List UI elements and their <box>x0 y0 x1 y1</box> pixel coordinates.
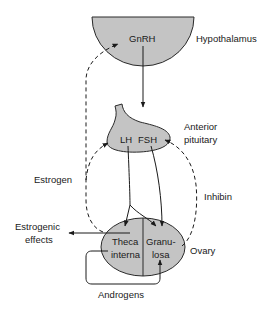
estrogenic-effects-label-1: Estrogenic <box>15 221 60 232</box>
theca-label-2: interna <box>111 249 141 260</box>
hpo-axis-diagram: GnRH Hypothalamus LH FSH Anterior pituit… <box>0 0 269 314</box>
hypothalamus-label: Hypothalamus <box>196 33 257 44</box>
estrogen-to-pituitary-arrow <box>86 143 108 180</box>
androgens-label: Androgens <box>98 289 144 300</box>
anterior-pituitary-label-2: pituitary <box>184 134 218 145</box>
lh-to-theca-arrow <box>125 146 130 226</box>
fsh-label: FSH <box>138 134 157 145</box>
granulosa-label-1: Granu- <box>146 236 176 247</box>
anterior-pituitary-label-1: Anterior <box>184 121 217 132</box>
theca-label-1: Theca <box>112 236 139 247</box>
estrogenic-effects-label-2: effects <box>25 234 53 245</box>
fsh-to-granulosa-arrow <box>151 146 162 226</box>
inhibin-label: Inhibin <box>204 191 232 202</box>
gnrh-label: GnRH <box>129 33 156 44</box>
ovary-label: Ovary <box>190 245 216 256</box>
estrogen-label: Estrogen <box>34 174 72 185</box>
granulosa-label-2: losa <box>152 249 170 260</box>
lh-label: LH <box>120 134 132 145</box>
